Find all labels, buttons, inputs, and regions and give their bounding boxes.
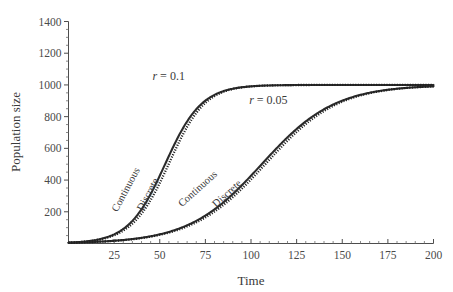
r-0-05-annotation-text: r = 0.05 xyxy=(249,93,287,107)
y-axis-title: Population size xyxy=(8,92,23,172)
y-tick-label: 800 xyxy=(44,111,62,123)
y-tick-label: 200 xyxy=(44,206,62,218)
y-tick-label: 400 xyxy=(44,174,62,186)
y-tick-label: 1400 xyxy=(39,16,62,28)
x-tick-label: 75 xyxy=(200,249,212,261)
x-tick-label: 25 xyxy=(108,249,120,261)
r-0-05-annotation: r = 0.05 xyxy=(249,93,287,107)
y-tick-label: 1200 xyxy=(39,47,62,59)
x-tick-label: 125 xyxy=(288,249,306,261)
x-tick-label: 150 xyxy=(334,249,352,261)
chart-canvas: 200400600800100012001400 255075100125150… xyxy=(0,0,453,292)
x-tick-label: 175 xyxy=(379,249,397,261)
x-tick-label: 50 xyxy=(154,249,166,261)
r-0-1-annotation: r = 0.1 xyxy=(152,69,184,83)
x-tick-label: 100 xyxy=(242,249,260,261)
x-axis-title: Time xyxy=(238,273,265,288)
logistic-growth-figure: 200400600800100012001400 255075100125150… xyxy=(0,0,453,292)
y-tick-label: 600 xyxy=(44,142,62,154)
y-tick-label: 1000 xyxy=(39,79,62,91)
r-0-1-annotation-text: r = 0.1 xyxy=(152,69,184,83)
x-tick-label: 200 xyxy=(425,249,443,261)
